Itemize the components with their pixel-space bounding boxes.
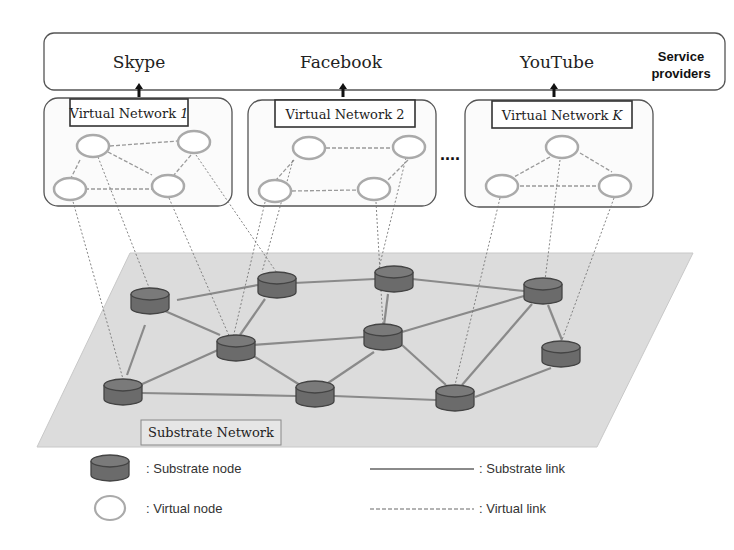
virtual-node xyxy=(293,137,325,159)
virtual-node xyxy=(486,175,518,197)
virtual-node xyxy=(546,136,578,158)
substrate-node-icon xyxy=(91,455,129,481)
service-providers-bar: Skype Facebook YouTube Service providers xyxy=(44,33,725,90)
legend-virtual-node: : Virtual node xyxy=(146,501,222,516)
substrate-node xyxy=(258,272,296,298)
virtual-network-2-title: Virtual Network 2 xyxy=(285,107,405,122)
virtual-node xyxy=(259,180,291,202)
legend-substrate-node: : Substrate node xyxy=(146,461,241,476)
substrate-network-label: Substrate Network xyxy=(148,425,274,440)
substrate-node xyxy=(104,379,142,405)
legend-virtual-link: : Virtual link xyxy=(479,501,546,516)
provider-facebook: Facebook xyxy=(300,52,383,72)
substrate-node xyxy=(375,266,413,292)
virtual-node xyxy=(358,178,390,200)
substrate-node xyxy=(436,385,474,411)
virtual-node xyxy=(77,135,109,157)
network-virtualization-diagram: Skype Facebook YouTube Service providers xyxy=(0,0,734,550)
substrate-node xyxy=(364,324,402,350)
virtual-network-k-title: Virtual Network K xyxy=(501,108,624,123)
virtual-node xyxy=(152,175,184,197)
virtual-node xyxy=(599,175,631,197)
substrate-node xyxy=(296,381,334,407)
service-providers-label-line2: providers xyxy=(651,66,710,81)
virtual-network-1-title: Virtual Network 1 xyxy=(69,106,189,121)
virtual-node-icon xyxy=(95,496,125,520)
ellipsis: .... xyxy=(440,144,460,164)
virtual-node xyxy=(54,178,86,200)
legend: : Substrate node : Virtual node : Substr… xyxy=(91,455,565,520)
substrate-node xyxy=(217,335,255,361)
provider-skype: Skype xyxy=(113,52,166,72)
substrate-node xyxy=(131,288,169,314)
substrate-node xyxy=(542,341,580,367)
substrate-node xyxy=(524,278,562,304)
virtual-node xyxy=(393,136,425,158)
substrate-network-label-box: Substrate Network xyxy=(141,420,281,445)
legend-substrate-link: : Substrate link xyxy=(479,461,565,476)
virtual-node xyxy=(178,131,210,153)
service-providers-label-line1: Service xyxy=(658,49,704,64)
provider-youtube: YouTube xyxy=(519,52,594,72)
